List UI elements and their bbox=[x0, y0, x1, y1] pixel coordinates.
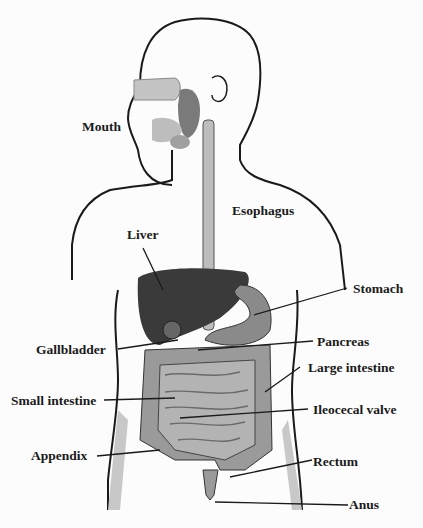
label-large-intestine: Large intestine bbox=[308, 361, 395, 375]
label-ileocecal-valve: Ileocecal valve bbox=[313, 403, 397, 417]
label-gallbladder: Gallbladder bbox=[36, 343, 106, 357]
throat bbox=[170, 135, 190, 149]
label-stomach: Stomach bbox=[353, 282, 403, 296]
gallbladder-organ bbox=[163, 321, 181, 339]
label-mouth: Mouth bbox=[82, 120, 121, 134]
label-small-intestine: Small intestine bbox=[11, 394, 96, 408]
label-anus: Anus bbox=[349, 498, 379, 512]
label-pancreas: Pancreas bbox=[317, 335, 369, 349]
label-appendix: Appendix bbox=[31, 449, 87, 463]
digestive-system-diagram: Mouth Esophagus Liver Stomach Gallbladde… bbox=[0, 0, 423, 528]
label-rectum: Rectum bbox=[313, 455, 358, 469]
rectum-organ bbox=[203, 470, 218, 500]
label-liver: Liver bbox=[127, 228, 159, 242]
label-esophagus: Esophagus bbox=[232, 204, 294, 218]
ear bbox=[212, 76, 227, 101]
nasal-cavity bbox=[134, 78, 180, 100]
